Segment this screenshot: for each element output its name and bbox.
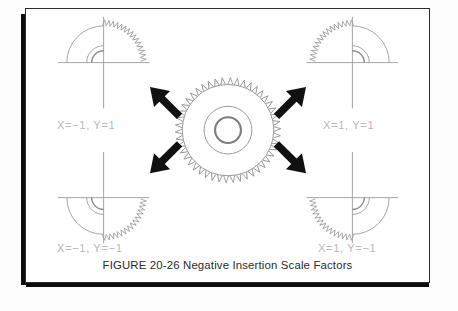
quadrant-diagram-top-left: [58, 17, 150, 108]
arrow-up-right: [274, 87, 306, 119]
quadrant-label-bottom-left: X=−1, Y=−1: [57, 242, 123, 254]
quadrant-label-top-right: X=1, Y=1: [323, 119, 374, 131]
figure-caption: FIGURE 20-26 Negative Insertion Scale Fa…: [26, 259, 429, 271]
figure-illustration: X=−1, Y=1 X=1, Y=1 X=−1, Y=−1 X=1, Y=−1 …: [26, 9, 429, 282]
center-gear-teeth: [175, 77, 281, 182]
quadrant-diagram-bottom-left: [58, 152, 150, 243]
figure-page: X=−1, Y=1 X=1, Y=1 X=−1, Y=−1 X=1, Y=−1 …: [25, 8, 430, 283]
arrow-up-left: [150, 87, 182, 119]
quadrant-label-bottom-right: X=1, Y=−1: [318, 242, 376, 254]
scanned-page-background: X=−1, Y=1 X=1, Y=1 X=−1, Y=−1 X=1, Y=−1 …: [0, 0, 458, 311]
arrow-down-left: [150, 141, 182, 173]
quadrant-diagram-bottom-right: [307, 152, 399, 243]
arrow-down-right: [274, 141, 306, 173]
quadrant-diagram-top-right: [307, 17, 399, 108]
center-gear: [175, 77, 281, 182]
quadrant-label-top-left: X=−1, Y=1: [57, 119, 115, 131]
